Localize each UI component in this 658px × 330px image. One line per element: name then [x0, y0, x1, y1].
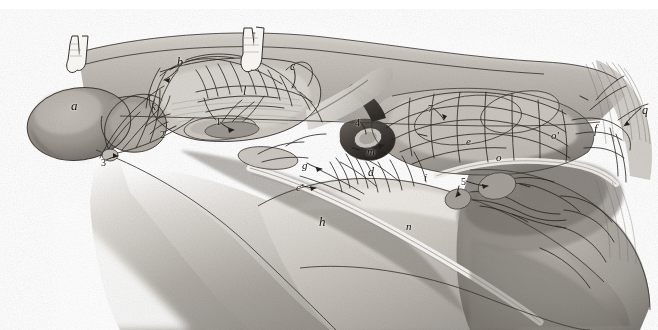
figure-label-3: 3 [101, 158, 106, 168]
figure-label-n: n [406, 221, 412, 232]
figure-label-d: d [368, 166, 374, 178]
figure-label-o: o [496, 152, 502, 163]
figure-label-4: 4 [355, 118, 360, 128]
figure-label-1: 1 [216, 117, 221, 127]
figure-label-g: g [302, 160, 308, 171]
figure-label-cprime: c' [296, 182, 303, 193]
figure-label-i: i [424, 172, 427, 183]
figure-label-b: b [177, 56, 183, 68]
figure-label-l: l [243, 85, 246, 97]
figure-label-m: m [367, 146, 375, 157]
figure-label-k: k [151, 101, 156, 112]
anatomy-drawing [0, 0, 658, 330]
illustration-plate: abckldmefgc'hnioo'q123457 [0, 0, 658, 330]
figure-label-h: h [319, 215, 326, 228]
figure-label-e: e [466, 136, 471, 147]
figure-label-2: 2 [160, 130, 165, 140]
figure-label-7: 7 [428, 104, 433, 114]
figure-label-a: a [71, 99, 78, 112]
figure-label-oprime: o' [551, 130, 559, 141]
figure-label-5: 5 [461, 177, 466, 187]
figure-label-c: c [290, 60, 295, 72]
figure-label-f: f [594, 123, 597, 135]
figure-label-q: q [642, 104, 648, 116]
